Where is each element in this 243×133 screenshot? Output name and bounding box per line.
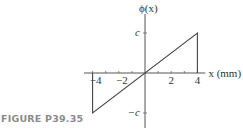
x-tick-label: −2	[116, 74, 128, 86]
y-tick-label: −c	[128, 106, 140, 118]
x-tick-label: 4	[195, 74, 201, 86]
figure-caption: FIGURE P39.35	[1, 113, 83, 124]
y-tick-label: c	[135, 26, 140, 38]
x-tick-label: −4	[90, 74, 102, 86]
y-axis-label: ϕ(x)	[139, 2, 158, 15]
x-axis-label: x (mm)	[208, 67, 241, 80]
x-tick-label: 2	[168, 74, 174, 86]
